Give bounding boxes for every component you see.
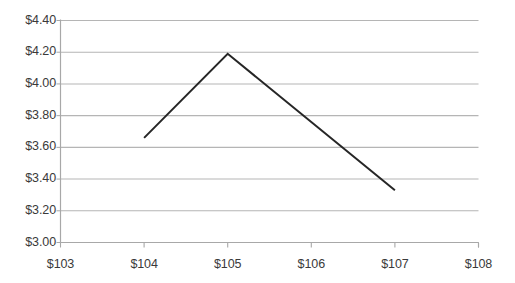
line-chart: $3.00$3.20$3.40$3.60$3.80$4.00$4.20$4.40…: [0, 0, 515, 283]
x-axis-tick-labels: $103$104$105$106$107$108: [0, 0, 515, 283]
x-axis-tick-label: $105: [198, 258, 258, 271]
x-axis-tick-label: $108: [449, 258, 509, 271]
x-axis-tick-label: $107: [365, 258, 425, 271]
x-axis-tick-label: $106: [281, 258, 341, 271]
x-axis-tick-label: $104: [114, 258, 174, 271]
x-axis-tick-label: $103: [31, 258, 91, 271]
